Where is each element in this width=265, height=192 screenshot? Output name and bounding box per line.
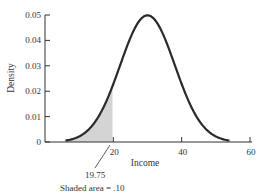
cutoff-label: 19.75 [85, 170, 106, 180]
shaded-area-note: Shaded area = .10 [60, 183, 125, 192]
shaded-area [66, 86, 113, 142]
y-tick-label: 0.05 [25, 10, 41, 20]
density-chart: 00.010.020.030.040.05 204060 Density Inc… [0, 0, 265, 192]
x-tick-labels: 204060 [110, 147, 256, 157]
y-tick-label: 0.02 [25, 86, 41, 96]
x-tick-label: 60 [247, 147, 257, 157]
y-tick-label: 0.04 [25, 35, 41, 45]
y-axis-label: Density [6, 63, 16, 93]
y-tick-label: 0.01 [25, 112, 41, 122]
x-tick-label: 20 [110, 147, 120, 157]
axes [45, 15, 252, 142]
y-tick-label: 0.03 [25, 61, 41, 71]
y-tick-labels: 00.010.020.030.040.05 [25, 10, 41, 147]
x-tick-label: 40 [178, 147, 188, 157]
density-curve [66, 15, 230, 140]
cutoff-pointer-line [95, 145, 110, 168]
y-tick-label: 0 [37, 137, 42, 147]
x-axis-label: Income [131, 158, 160, 168]
